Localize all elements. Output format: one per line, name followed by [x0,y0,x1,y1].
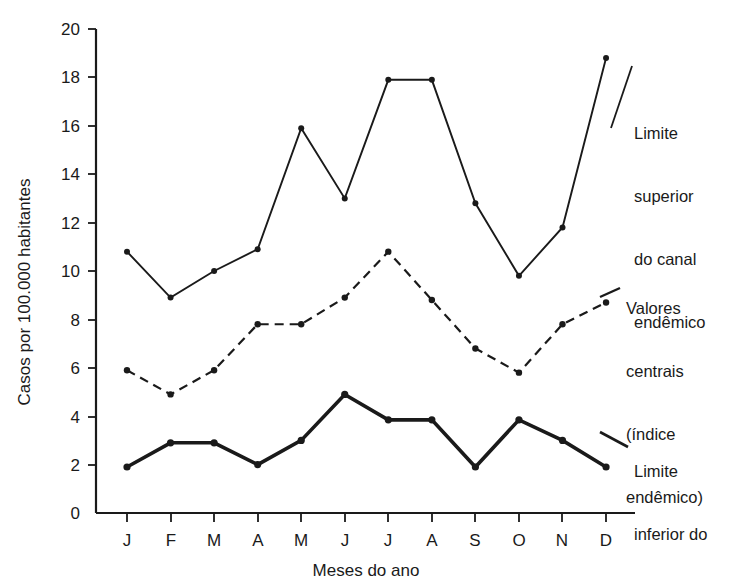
data-point [516,273,522,279]
data-point [560,224,566,230]
series-valores-centrais [124,248,609,397]
annotation-central-line-1: Valores [626,298,703,319]
series-line [127,58,606,298]
y-tick-label-2: 2 [71,456,80,475]
data-point [254,321,260,327]
y-axis-ticks [88,29,96,465]
data-point [124,367,130,373]
data-point [168,295,174,301]
data-point [342,294,348,300]
data-point [603,55,609,61]
data-point [211,439,218,446]
data-point [167,439,174,446]
series-limite-superior [124,55,609,301]
data-point [428,416,435,423]
annotation-lower-line-2: inferior do [634,524,707,545]
x-tick-label-2: F [166,531,176,550]
y-axis-tick-labels: 20 18 16 14 12 10 8 6 4 2 0 [61,20,80,523]
y-axis-title-container: Casos por 100.000 habitantes [8,0,42,584]
chart-canvas: 20 18 16 14 12 10 8 6 4 2 0 [0,0,733,584]
data-point [472,345,478,351]
data-point [342,195,348,201]
annotation-central-line-2: centrais [626,361,703,382]
x-tick-label-4: A [252,531,264,550]
x-tick-label-6: J [341,531,350,550]
series-limite-inferior [123,391,609,471]
y-tick-label-6: 6 [71,359,80,378]
series-line [127,394,606,467]
y-axis-title: Casos por 100.000 habitantes [15,179,35,406]
series-line [127,252,606,395]
x-axis-title: Meses do ano [313,561,420,580]
y-tick-label-16: 16 [61,117,80,136]
data-point [167,391,173,397]
data-point [254,461,261,468]
data-point [341,391,348,398]
data-point [472,200,478,206]
data-point [123,463,130,470]
annotation-upper-line-1: Limite [634,123,706,144]
annotation-lower-line-1: Limite [634,461,707,482]
data-point [385,416,392,423]
x-tick-label-12: D [600,531,612,550]
data-point [124,249,130,255]
data-point [298,437,305,444]
y-tick-label-14: 14 [61,165,80,184]
leader-line-lower [600,432,628,447]
data-point [298,125,304,131]
x-axis-ticks [127,513,606,522]
data-point [385,77,391,83]
data-point [298,321,304,327]
data-point [211,268,217,274]
data-point [385,248,391,254]
endemic-channel-chart: Casos por 100.000 habitantes 20 18 [0,0,733,584]
x-tick-label-8: A [426,531,438,550]
y-tick-label-10: 10 [61,262,80,281]
axes [96,29,635,513]
x-tick-label-1: J [123,531,132,550]
x-tick-label-11: N [556,531,568,550]
leader-line-upper [611,66,632,128]
leader-line-central [600,288,620,297]
y-tick-label-12: 12 [61,214,80,233]
data-point [429,297,435,303]
data-point [429,77,435,83]
data-point [211,367,217,373]
x-tick-label-5: M [294,531,308,550]
annotation-upper-line-2: superior [634,186,706,207]
data-point [559,321,565,327]
data-point [516,369,522,375]
data-point [602,463,609,470]
y-tick-label-20: 20 [61,20,80,39]
x-axis-tick-labels: J F M A M J J A S O N D [123,531,612,550]
y-tick-label-4: 4 [71,408,80,427]
data-point [515,416,522,423]
data-point [472,463,479,470]
y-tick-label-18: 18 [61,68,80,87]
y-tick-label-8: 8 [71,311,80,330]
x-tick-label-9: S [469,531,480,550]
y-tick-label-0: 0 [71,504,80,523]
data-point [559,437,566,444]
data-point [255,246,261,252]
x-tick-label-3: M [207,531,221,550]
x-tick-label-7: J [384,531,393,550]
data-point [603,299,609,305]
annotation-limite-inferior: Limite inferior do canal endêmico [634,419,707,584]
x-tick-label-10: O [512,531,525,550]
